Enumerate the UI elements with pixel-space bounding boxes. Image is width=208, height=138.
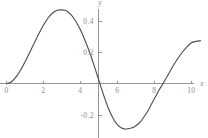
- x-tick-label: 6: [115, 86, 119, 95]
- data-curve: [6, 10, 200, 129]
- x-axis-label: x: [199, 79, 204, 88]
- plot-canvas: 02468100.40.2-0.2 xy: [0, 0, 208, 138]
- y-axis-label: y: [97, 0, 102, 7]
- y-tick-label: 0.2: [83, 48, 94, 57]
- x-tick-label: 0: [4, 86, 8, 95]
- plot-figure: 02468100.40.2-0.2 xy: [0, 0, 208, 138]
- tick-labels-group: 02468100.40.2-0.2: [4, 17, 195, 120]
- curve-group: [6, 10, 200, 129]
- axis-name-group: xy: [97, 0, 204, 88]
- x-tick-label: 8: [152, 86, 156, 95]
- x-tick-label: 2: [41, 86, 45, 95]
- x-tick-label: 10: [187, 86, 195, 95]
- y-tick-label: 0.4: [83, 17, 94, 26]
- y-tick-label: -0.2: [80, 111, 93, 120]
- x-tick-label: 4: [78, 86, 82, 95]
